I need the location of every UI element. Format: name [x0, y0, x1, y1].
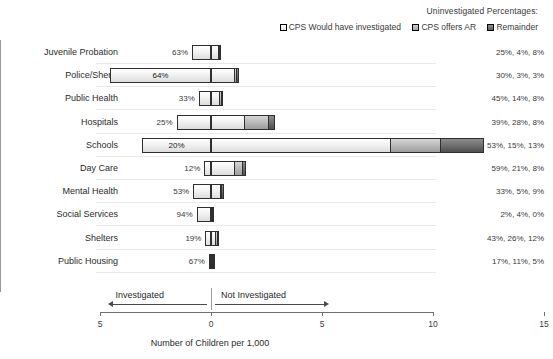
x-axis: 5051015 Number of Children per 1,000: [0, 312, 546, 359]
x-axis-title: Number of Children per 1,000: [0, 338, 420, 348]
investigated-arrowhead-icon: [108, 301, 113, 307]
segment-cps-offers-ar: [212, 207, 214, 222]
x-tick-label: 5: [307, 319, 337, 329]
legend-swatch-light-icon: [280, 24, 287, 31]
investigated-percent-label: 63%: [144, 48, 188, 57]
chart-row: Hospitals25%39%, 28%, 8%: [0, 112, 546, 135]
category-label: Schools: [0, 140, 118, 150]
x-tick-label: 10: [418, 319, 448, 329]
bar-investigated: [197, 207, 211, 222]
legend-item-cps-would-have-investigated: CPS Would have investigated: [280, 22, 401, 32]
row-separator: [96, 202, 436, 203]
bar-investigated: [193, 184, 211, 199]
segment-remainder: [221, 91, 223, 106]
legend-swatch-medium-icon: [412, 24, 419, 31]
segment-remainder: [268, 115, 275, 130]
plot-area: Juvenile Probation63%25%, 4%, 8%Police/S…: [0, 40, 546, 292]
segment-cps-would-have-investigated: [211, 138, 391, 153]
legend-swatch-dark-icon: [487, 24, 494, 31]
direction-annotations: Investigated Not Investigated: [0, 290, 546, 310]
segment-remainder: [213, 254, 215, 269]
uninvestigated-percent-label: 33%, 5%, 9%: [424, 187, 544, 196]
chart-row: Day Care12%59%, 21%, 8%: [0, 158, 546, 181]
chart-row: Shelters19%43%, 26%, 12%: [0, 228, 546, 251]
uninvestigated-percent-label: 59%, 21%, 8%: [424, 164, 544, 173]
x-axis-line: [100, 312, 433, 313]
row-separator: [96, 86, 436, 87]
row-separator: [96, 133, 436, 134]
segment-cps-offers-ar: [244, 115, 268, 130]
chart-legend: CPS Would have investigated CPS offers A…: [0, 22, 538, 32]
legend-label-1: CPS offers AR: [421, 22, 476, 32]
x-tick-label: 15: [529, 319, 553, 329]
segment-remainder: [242, 161, 245, 176]
investigated-percent-label: 12%: [156, 164, 200, 173]
investigated-percent-label: 53%: [145, 187, 189, 196]
investigated-percent-label: 20%: [142, 141, 211, 150]
segment-remainder: [217, 231, 219, 246]
segment-remainder: [219, 45, 221, 60]
uninvestigated-percent-label: 53%, 15%, 13%: [424, 141, 544, 150]
x-tick: [211, 312, 212, 316]
not-investigated-arrow: [215, 304, 325, 305]
not-investigated-label: Not Investigated: [221, 290, 286, 300]
row-separator: [96, 272, 436, 273]
x-tick-label: 0: [196, 319, 226, 329]
segment-remainder: [236, 68, 239, 83]
bar-investigated: [199, 91, 211, 106]
category-label: Public Housing: [0, 256, 118, 266]
uninvestigated-percent-label: 25%, 4%, 8%: [424, 48, 544, 57]
investigated-percent-label: 25%: [129, 118, 173, 127]
legend-label-2: Remainder: [496, 22, 538, 32]
category-label: Mental Health: [0, 186, 118, 196]
chart-row: Mental Health53%33%, 5%, 9%: [0, 181, 546, 204]
row-separator: [96, 179, 436, 180]
legend-item-remainder: Remainder: [487, 22, 538, 32]
chart-row: Social Services94%2%, 4%, 0%: [0, 204, 546, 227]
bar-investigated: [177, 115, 211, 130]
legend-title: Uninvestigated Percentages:: [0, 6, 538, 16]
row-separator: [96, 225, 436, 226]
category-label: Public Health: [0, 93, 118, 103]
uninvestigated-percent-label: 39%, 28%, 8%: [424, 118, 544, 127]
x-tick: [433, 312, 434, 316]
x-tick: [100, 312, 101, 316]
uninvestigated-percent-label: 43%, 26%, 12%: [424, 234, 544, 243]
uninvestigated-percent-label: 30%, 3%, 3%: [424, 71, 544, 80]
direction-divider: [211, 288, 212, 310]
investigated-arrow: [109, 304, 207, 305]
legend-label-0: CPS Would have investigated: [289, 22, 401, 32]
bar-investigated: [204, 161, 211, 176]
row-separator: [96, 63, 436, 64]
row-separator: [96, 249, 436, 250]
investigated-label: Investigated: [116, 290, 165, 300]
category-label: Police/Sheriff: [0, 70, 118, 80]
segment-cps-would-have-investigated: [211, 161, 235, 176]
bar-investigated: [192, 45, 211, 60]
legend-item-cps-offers-ar: CPS offers AR: [412, 22, 476, 32]
x-tick: [322, 312, 323, 316]
investigated-percent-label: 67%: [161, 257, 205, 266]
segment-cps-would-have-investigated: [211, 115, 245, 130]
category-label: Social Services: [0, 209, 118, 219]
category-label: Juvenile Probation: [0, 47, 118, 57]
investigated-percent-label: 94%: [149, 210, 193, 219]
category-label: Hospitals: [0, 117, 118, 127]
chart-row: Public Housing67%17%, 11%, 5%: [0, 251, 546, 274]
not-investigated-arrowhead-icon: [324, 301, 329, 307]
uninvestigated-percent-label: 45%, 14%, 8%: [424, 94, 544, 103]
investigated-percent-label: 64%: [110, 71, 211, 80]
x-tick: [544, 312, 545, 316]
category-label: Day Care: [0, 163, 118, 173]
uninvestigated-percent-label: 2%, 4%, 0%: [424, 210, 544, 219]
x-tick-label: 5: [85, 319, 115, 329]
row-separator: [96, 109, 436, 110]
chart-row: Public Health33%45%, 14%, 8%: [0, 88, 546, 111]
uninvestigated-percent-label: 17%, 11%, 5%: [424, 257, 544, 266]
chart-row: Police/Sheriff64%30%, 3%, 3%: [0, 65, 546, 88]
chart-row: Schools20%53%, 15%, 13%: [0, 135, 546, 158]
investigated-percent-label: 33%: [151, 94, 195, 103]
category-label: Shelters: [0, 233, 118, 243]
row-separator: [96, 156, 436, 157]
